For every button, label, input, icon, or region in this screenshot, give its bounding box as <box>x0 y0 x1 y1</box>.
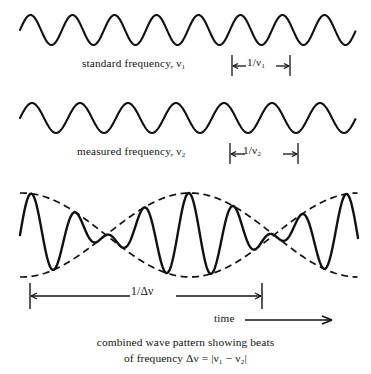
period1-marker-label: 1/ν₁ <box>247 56 265 68</box>
beat-frequency-figure: standard frequency, ν₁ measured frequenc… <box>0 0 371 374</box>
caption-line-1: combined wave pattern showing beats <box>0 336 371 348</box>
beat-period-marker-label: 1/Δν <box>131 285 154 298</box>
period2-marker-label: 1/ν₂ <box>243 144 261 156</box>
envelope-lower-path <box>20 193 358 277</box>
standard-frequency-wave <box>20 15 355 45</box>
wave2-label: measured frequency, ν₂ <box>77 145 186 157</box>
measured-frequency-wave <box>20 103 355 133</box>
combined-beat-wave <box>20 193 358 277</box>
wave1-label: standard frequency, ν₁ <box>82 57 186 69</box>
time-axis-label: time <box>214 312 235 324</box>
envelope-upper-path <box>20 193 358 277</box>
period2-dimension-bar <box>230 143 298 164</box>
beat-carrier-path <box>20 193 358 274</box>
caption-line-2: of frequency Δν = |ν₁ − ν₂| <box>0 352 371 364</box>
time-axis-arrow <box>245 316 332 324</box>
wave1-path <box>20 15 355 45</box>
wave2-path <box>20 103 355 133</box>
